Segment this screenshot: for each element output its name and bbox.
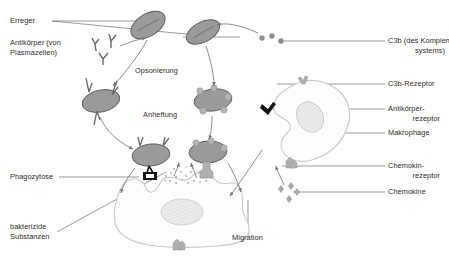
- chemokine-molecules: [278, 182, 300, 203]
- c3b-molecules: [259, 33, 283, 43]
- arrow-engulf-1: [174, 163, 179, 176]
- macrophage-left: [114, 171, 249, 250]
- pathogen-1: [126, 6, 170, 45]
- arrow-anheftung-left: [100, 117, 133, 149]
- label-phagozytose: Phagozytose: [10, 172, 53, 182]
- label-antikoerper-rezeptor-line1: Antikörper-: [388, 104, 425, 114]
- diagram-graphics: [0, 0, 449, 263]
- antibody-3: [99, 53, 108, 65]
- label-antikoerper-line2: Plasmazellen): [10, 48, 57, 58]
- label-antikoerper-line1: Antikörper (von: [10, 38, 61, 48]
- pathogen-4-opsonized-c3b: [193, 85, 234, 114]
- arrow-migration-flow: [230, 150, 262, 196]
- diagram-canvas: Erreger Antikörper (von Plasmazellen) Op…: [0, 0, 449, 263]
- arrow-anheftung-right: [209, 116, 212, 139]
- label-c3b-line2: systems): [388, 46, 445, 56]
- label-bakterizide-line1: bakterizide: [10, 222, 46, 232]
- arrow-opsonierung-left: [113, 40, 147, 86]
- arrow-opsonierung-right: [206, 46, 214, 86]
- macrophage-right: [274, 80, 350, 161]
- label-c3b-rezeptor: C3b-Rezeptor: [388, 79, 435, 89]
- pathogens: [80, 6, 233, 180]
- label-opsonierung: Opsonierung: [135, 66, 178, 76]
- arrow-chemokine-to-receptor: [276, 166, 284, 185]
- label-chemokine: Chemokine: [388, 187, 426, 197]
- label-migration: Migration: [232, 233, 263, 243]
- antibody-1: [92, 38, 99, 51]
- label-bakterizide-line2: Substanzen: [10, 232, 50, 242]
- arrow-c3b-to-pathogen: [217, 24, 258, 33]
- label-c3b-line1: C3b (des Komplement-: [388, 36, 446, 46]
- label-makrophage: Makrophage: [388, 128, 430, 138]
- arrow-engulf-2: [191, 163, 196, 176]
- label-erreger: Erreger: [10, 16, 35, 26]
- arrow-antibody-to-pathogen: [120, 38, 146, 46]
- label-chemokin-rezeptor-line2: rezeptor: [388, 171, 440, 181]
- antibody-2: [109, 34, 116, 48]
- process-arrows: [100, 24, 284, 196]
- label-chemokin-rezeptor-line1: Chemokin-: [388, 161, 424, 171]
- pathogen-3-opsonized-antibody: [80, 78, 122, 125]
- pathogen-5-attached-antibody: [131, 137, 171, 180]
- label-antikoerper-rezeptor-line2: rezeptor: [388, 114, 440, 124]
- free-antibodies: [92, 34, 116, 65]
- label-anheftung: Anheftung: [143, 110, 177, 120]
- pathogen-2: [182, 15, 223, 50]
- nucleus-left: [161, 199, 203, 225]
